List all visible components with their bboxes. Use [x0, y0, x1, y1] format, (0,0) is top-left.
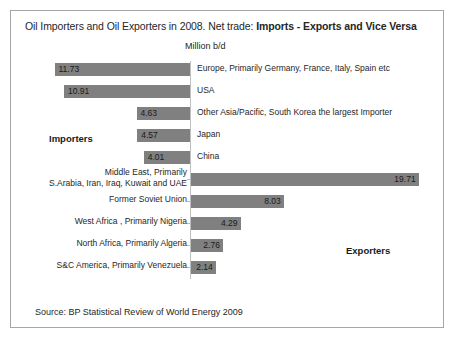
category-label: West Africa , Primarily Nigeria: [75, 216, 187, 227]
exporters-annotation: Exporters: [346, 245, 390, 256]
category-label: North Africa, Primarily Algeria: [76, 238, 187, 249]
importers-annotation: Importers: [49, 133, 93, 144]
bar-row: 4.01China: [11, 147, 445, 169]
bar-row: 8.03Former Soviet Union: [11, 191, 445, 213]
category-label: S&C America, Primarily Venezuela: [57, 260, 187, 271]
category-label: USA: [197, 85, 214, 96]
bar-row: 4.29West Africa , Primarily Nigeria: [11, 213, 445, 235]
category-label: Former Soviet Union: [109, 194, 187, 205]
chart-title-emphasis: Imports - Exports and Vice Versa: [256, 20, 417, 32]
bar-row: 4.63Other Asia/Pacific, South Korea the …: [11, 103, 445, 125]
category-label: China: [197, 151, 219, 162]
bar-value-label: 11.73: [59, 63, 80, 76]
category-label: Europe, Primarily Germany, France, Italy…: [197, 63, 390, 74]
bar-row: 11.73Europe, Primarily Germany, France, …: [11, 59, 445, 81]
chart-title: Oil Importers and Oil Exporters in 2008.…: [25, 20, 417, 32]
bar-value-label: 2.76: [198, 239, 220, 252]
bar-value-label: 19.71: [394, 173, 416, 186]
chart-frame: Oil Importers and Oil Exporters in 2008.…: [10, 10, 444, 328]
bar-value-label: 4.57: [141, 129, 158, 142]
bar-value-label: 2.14: [191, 261, 213, 274]
bar-row: 10.91USA: [11, 81, 445, 103]
category-label: Other Asia/Pacific, South Korea the larg…: [197, 107, 392, 118]
source-note: Source: BP Statistical Review of World E…: [35, 307, 243, 317]
chart-title-plain: Oil Importers and Oil Exporters in 2008.…: [25, 20, 256, 32]
bar-value-label: 10.91: [68, 85, 89, 98]
bar-value-label: 4.01: [148, 151, 165, 164]
bar-value-label: 8.03: [259, 195, 281, 208]
category-label: Middle East, Primarily S.Arabia, Iran, I…: [49, 167, 187, 188]
bar-value-label: 4.29: [216, 217, 238, 230]
bar-value-label: 4.63: [141, 107, 158, 120]
bar-row: 19.71Middle East, Primarily S.Arabia, Ir…: [11, 169, 445, 191]
category-label: Japan: [197, 129, 220, 140]
bar: [191, 173, 419, 186]
bar-row: 2.14S&C America, Primarily Venezuela: [11, 257, 445, 279]
axis-title: Million b/d: [185, 41, 226, 51]
